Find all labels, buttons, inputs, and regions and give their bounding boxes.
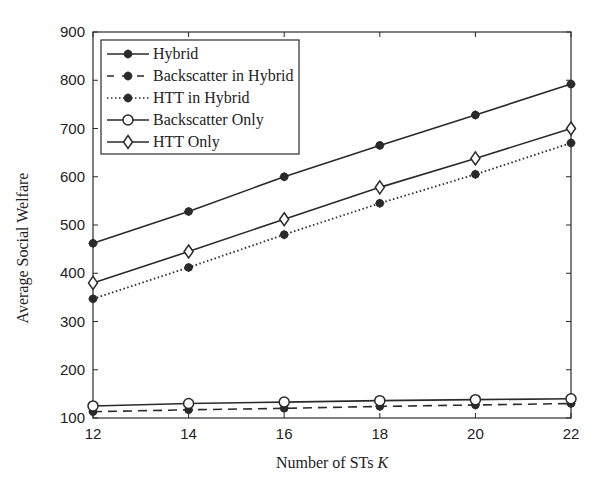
y-tick-label: 400 — [60, 264, 85, 281]
diamond-marker-icon — [89, 276, 98, 289]
series-backscatter-only — [88, 394, 576, 411]
y-tick-label: 500 — [60, 216, 85, 233]
circle-marker-icon — [375, 396, 385, 406]
star-marker-icon — [280, 172, 289, 181]
star-marker-icon — [471, 170, 480, 179]
x-tick-label: 16 — [276, 425, 293, 442]
y-tick-label: 900 — [60, 23, 85, 40]
diamond-marker-icon — [567, 122, 576, 135]
diamond-marker-icon — [375, 181, 384, 194]
x-tick-label: 14 — [180, 425, 197, 442]
circle-marker-icon — [123, 115, 133, 125]
circle-marker-icon — [566, 394, 576, 404]
y-tick-label: 200 — [60, 361, 85, 378]
x-tick-label: 18 — [371, 425, 388, 442]
series-line — [93, 143, 571, 299]
legend-label: HTT Only — [153, 133, 220, 151]
star-marker-icon — [184, 263, 193, 272]
diamond-marker-icon — [184, 245, 193, 258]
star-marker-icon — [280, 230, 289, 239]
diamond-marker-icon — [280, 213, 289, 226]
y-tick-label: 700 — [60, 120, 85, 137]
y-tick-label: 300 — [60, 313, 85, 330]
star-marker-icon — [184, 207, 193, 216]
legend: HybridBackscatter in HybridHTT in Hybrid… — [101, 40, 299, 154]
y-axis-label: Average Social Welfare — [14, 173, 32, 324]
diamond-marker-icon — [471, 152, 480, 165]
star-marker-icon — [567, 138, 576, 147]
x-tick-label: 12 — [85, 425, 102, 442]
circle-marker-icon — [279, 397, 289, 407]
star-marker-icon — [89, 294, 98, 303]
y-tick-label: 100 — [60, 409, 85, 426]
y-tick-label: 600 — [60, 168, 85, 185]
legend-label: HTT in Hybrid — [153, 89, 250, 107]
line-chart: 121416182022100200300400500600700800900 … — [0, 0, 609, 488]
circle-marker-icon — [88, 401, 98, 411]
star-marker-icon — [375, 141, 384, 150]
x-tick-label: 22 — [563, 425, 580, 442]
legend-label: Hybrid — [153, 45, 198, 63]
star-marker-icon — [375, 199, 384, 208]
legend-label: Backscatter Only — [153, 111, 264, 129]
x-axis-label: Number of STs K — [276, 454, 390, 471]
circle-marker-icon — [470, 395, 480, 405]
legend-label: Backscatter in Hybrid — [153, 67, 293, 85]
circle-marker-icon — [184, 399, 194, 409]
star-marker-icon — [567, 80, 576, 89]
x-tick-label: 20 — [467, 425, 484, 442]
y-tick-label: 800 — [60, 71, 85, 88]
star-marker-icon — [471, 110, 480, 119]
star-marker-icon — [89, 239, 98, 248]
